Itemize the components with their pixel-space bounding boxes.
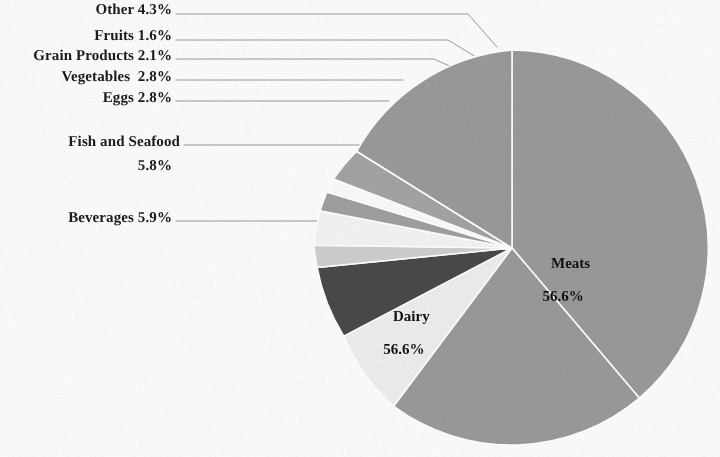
pie-slices [314, 50, 708, 445]
callout-label-beverages: Beverages 5.9% [68, 211, 172, 227]
leader-line-fruits [176, 40, 476, 57]
leader-line-grain [176, 59, 458, 70]
callout-label-fish-and-seafood-value: 5.8% [138, 159, 172, 175]
slice-label-meats: Meats 56.6% [536, 238, 590, 339]
slice-label-meats-name: Meats [551, 255, 590, 271]
callout-label-fruits: Fruits 1.6% [94, 29, 172, 45]
slice-label-dairy-name: Dairy [393, 308, 430, 324]
callout-label-fish-and-seafood: Fish and Seafood [68, 135, 180, 151]
callout-label-grain-products: Grain Products 2.1% [33, 49, 172, 65]
callout-label-eggs: Eggs 2.8% [103, 91, 172, 107]
slice-label-meats-value: 56.6% [536, 288, 590, 305]
slice-label-dairy-value: 56.6% [378, 341, 430, 358]
pie-chart-figure: Other 4.3% Fruits 1.6% Grain Products 2.… [0, 0, 720, 457]
callout-label-vegetables: Vegetables 2.8% [61, 70, 172, 86]
leader-line-other [176, 14, 497, 47]
slice-label-dairy: Dairy 56.6% [378, 291, 430, 392]
callout-label-other: Other 4.3% [95, 3, 172, 19]
